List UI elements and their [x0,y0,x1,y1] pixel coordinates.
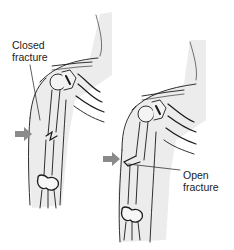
open-fracture-label-line2: fracture [183,181,219,193]
closed-fracture-label: Closed fracture [12,39,48,63]
open-fracture-arrow-icon [103,152,120,166]
fracture-illustration [0,0,234,250]
closed-fracture-label-line2: fracture [12,51,48,63]
closed-fracture-label-line1: Closed [12,39,48,51]
open-fracture-label: Open fracture [183,169,219,193]
open-fracture-figure [118,40,206,242]
open-fracture-label-line1: Open [183,169,219,181]
